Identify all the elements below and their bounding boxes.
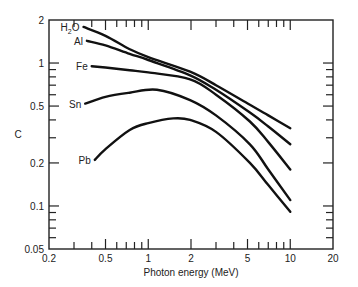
y-axis-title: C — [14, 129, 21, 140]
axis-tick-labels: 0.20.512510200.050.10.20.512 — [25, 15, 339, 264]
photon-energy-chart: 0.20.512510200.050.10.20.512 H2OAlFeSnPb… — [0, 0, 358, 287]
axis-ticks — [49, 20, 333, 249]
series-label-pb: Pb — [79, 155, 92, 166]
y-tick-label: 0.1 — [30, 201, 44, 212]
x-tick-label: 20 — [327, 253, 339, 264]
y-tick-label: 1 — [38, 58, 44, 69]
series-label-al: Al — [74, 36, 83, 47]
y-tick-label: 0.05 — [25, 244, 45, 255]
y-tick-label: 0.5 — [30, 101, 44, 112]
plot-frame — [49, 20, 333, 249]
curve-fe — [92, 66, 291, 169]
data-curves — [84, 27, 291, 212]
series-labels: H2OAlFeSnPb — [61, 22, 92, 166]
x-tick-label: 1 — [145, 253, 151, 264]
series-label-fe: Fe — [76, 61, 88, 72]
y-tick-label: 2 — [38, 15, 44, 26]
x-axis-title: Photon energy (MeV) — [143, 267, 238, 278]
curve-al — [87, 41, 290, 145]
series-label-h2o: H2O — [61, 22, 80, 35]
x-tick-label: 5 — [245, 253, 251, 264]
x-tick-label: 0.2 — [42, 253, 56, 264]
x-tick-label: 0.5 — [99, 253, 113, 264]
x-tick-label: 2 — [188, 253, 194, 264]
curve-sn — [85, 89, 290, 200]
series-label-sn: Sn — [69, 99, 81, 110]
x-tick-label: 10 — [285, 253, 297, 264]
y-tick-label: 0.2 — [30, 158, 44, 169]
